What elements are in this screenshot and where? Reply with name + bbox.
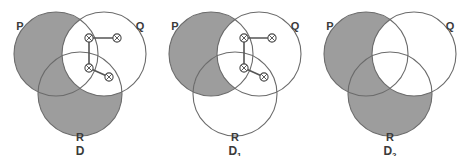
set-label-r: R: [231, 131, 239, 143]
panel-caption-subscript: 2: [392, 151, 397, 156]
graph-node-n1: [240, 34, 248, 42]
panel-caption-base: D: [228, 144, 237, 156]
graph-node-n4: [260, 73, 268, 81]
set-label-q: Q: [136, 20, 145, 32]
set-label-r: R: [386, 131, 394, 143]
venn-panel-d: P Q R: [0, 0, 156, 156]
set-label-p: P: [171, 20, 178, 32]
set-label-p: P: [16, 20, 23, 32]
venn-panel-d2: P Q R D2: [310, 0, 466, 156]
graph-node-n3: [85, 64, 93, 72]
set-label-r: R: [76, 131, 84, 143]
venn-panel-d1: P Q R: [155, 0, 311, 156]
panel-caption-subscript: 1: [237, 151, 242, 156]
set-label-q: Q: [446, 20, 455, 32]
venn-diagram-d: P Q R: [0, 0, 156, 156]
graph-node-n4: [105, 73, 113, 81]
graph-node-n3: [240, 64, 248, 72]
panel-caption: D: [76, 144, 85, 156]
venn-diagram-d1: P Q R: [155, 0, 311, 156]
panel-caption: D2: [383, 144, 397, 156]
panel-caption: D1: [228, 144, 242, 156]
venn-diagram-d2: P Q R D2: [310, 0, 466, 156]
graph-node-n1: [85, 34, 93, 42]
venn-figure-root: P Q R: [0, 0, 470, 156]
panel-caption-base: D: [383, 144, 392, 156]
graph-node-n2: [113, 34, 121, 42]
graph-node-n2: [268, 34, 276, 42]
panel-caption-base: D: [76, 144, 85, 156]
set-label-p: P: [326, 20, 333, 32]
set-label-q: Q: [291, 20, 300, 32]
